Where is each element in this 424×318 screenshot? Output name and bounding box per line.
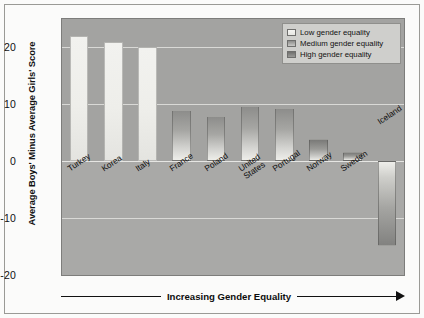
- y-tick-label-10: 10: [0, 98, 16, 110]
- y-tick-label-20: 20: [0, 41, 16, 53]
- legend: Low gender equality Medium gender equali…: [282, 23, 401, 64]
- chart-figure: Average Boys' Minus Average Girls' Score…: [0, 0, 424, 318]
- y-tick-label-neg20: -20: [0, 269, 16, 281]
- arrow-right-icon: [396, 291, 405, 301]
- gridline-neg10: [62, 218, 404, 219]
- x-axis-annotation: Increasing Gender Equality: [61, 287, 405, 305]
- legend-swatch-low-icon: [287, 29, 296, 36]
- y-axis-title: Average Boys' Minus Average Girls' Score: [26, 24, 37, 244]
- gridline-neg20: [62, 275, 404, 276]
- legend-swatch-high-icon: [287, 51, 296, 58]
- bar-iceland[interactable]: [378, 161, 397, 246]
- legend-swatch-medium-icon: [287, 40, 296, 47]
- legend-label-medium: Medium gender equality: [300, 39, 383, 48]
- bar-italy[interactable]: [138, 47, 157, 161]
- legend-item-medium[interactable]: Medium gender equality: [287, 38, 396, 49]
- legend-label-high: High gender equality: [300, 50, 372, 59]
- annotation-rule-right: [297, 296, 397, 297]
- plot-area: Turkey Korea Italy France Poland United …: [61, 18, 405, 276]
- y-tick-label-0: 0: [0, 155, 16, 167]
- x-axis-annotation-text: Increasing Gender Equality: [161, 291, 297, 302]
- bar-korea[interactable]: [104, 42, 123, 162]
- legend-item-high[interactable]: High gender equality: [287, 49, 396, 60]
- legend-label-low: Low gender equality: [300, 28, 370, 37]
- annotation-rule-left: [61, 296, 161, 297]
- bar-turkey[interactable]: [70, 36, 89, 161]
- legend-item-low[interactable]: Low gender equality: [287, 27, 396, 38]
- y-tick-label-neg10: -10: [0, 212, 16, 224]
- x-label-iceland: Iceland: [376, 104, 404, 127]
